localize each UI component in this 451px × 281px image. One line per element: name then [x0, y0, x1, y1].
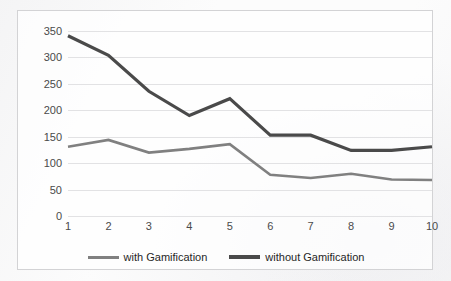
series-line	[68, 140, 432, 180]
legend-line-swatch	[88, 256, 119, 259]
x-axis-tick-label: 5	[227, 221, 233, 232]
y-axis-tick-label: 50	[50, 184, 62, 195]
legend-label: without Gamification	[265, 251, 364, 263]
y-axis-tick-label: 300	[44, 52, 62, 63]
chart-legend: with Gamificationwithout Gamification	[18, 251, 434, 263]
x-axis: 12345678910	[68, 221, 432, 237]
legend-label: with Gamification	[124, 251, 208, 263]
x-axis-tick-label: 7	[308, 221, 314, 232]
y-axis-tick-label: 150	[44, 131, 62, 142]
legend-line-swatch	[229, 255, 260, 259]
x-axis-tick-label: 1	[65, 221, 71, 232]
y-axis-tick-label: 200	[44, 105, 62, 116]
x-axis-tick-label: 4	[186, 221, 192, 232]
y-axis: 050100150200250300350	[36, 31, 62, 216]
y-axis-tick-label: 250	[44, 78, 62, 89]
y-axis-tick-label: 100	[44, 158, 62, 169]
chart-page: 050100150200250300350 12345678910 with G…	[0, 0, 451, 281]
x-axis-tick-label: 2	[105, 221, 111, 232]
series-layer	[68, 31, 432, 216]
series-line	[68, 36, 432, 151]
legend-item[interactable]: without Gamification	[229, 251, 364, 263]
y-axis-tick-label: 0	[56, 211, 62, 222]
x-axis-tick-label: 9	[388, 221, 394, 232]
plot-area	[68, 31, 432, 216]
x-axis-tick-label: 3	[146, 221, 152, 232]
legend-item[interactable]: with Gamification	[88, 251, 208, 263]
x-axis-tick-label: 6	[267, 221, 273, 232]
y-axis-tick-label: 350	[44, 26, 62, 37]
chart-frame: 050100150200250300350 12345678910 with G…	[17, 10, 433, 270]
x-axis-tick-label: 10	[426, 221, 438, 232]
gridline	[68, 216, 432, 217]
x-axis-tick-label: 8	[348, 221, 354, 232]
